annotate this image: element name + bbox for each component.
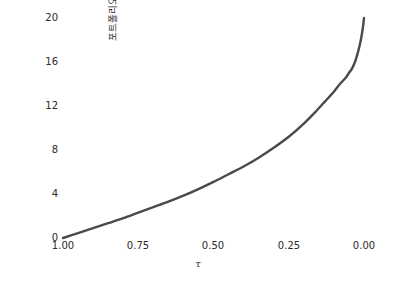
portfolio-value-curve-svg (0, 0, 396, 287)
plot-area (0, 0, 396, 287)
portfolio-value-line (63, 18, 364, 238)
chart-figure: 포트폴리오 가치 20 16 12 8 4 0 1.00 0.75 0.50 0… (0, 0, 396, 287)
